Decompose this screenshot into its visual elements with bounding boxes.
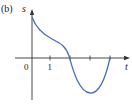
- origin-tick-label: 0: [24, 62, 29, 72]
- t-axis-label: t: [125, 61, 128, 72]
- panel-label: (b): [1, 3, 13, 15]
- figure-canvas: (b) s t 0 1: [0, 0, 132, 105]
- s-of-t-curve: [32, 17, 110, 93]
- position-time-graph: (b) s t 0 1: [0, 0, 132, 105]
- t-axis-arrow-icon: [124, 56, 130, 60]
- s-axis-label: s: [22, 3, 26, 14]
- s-axis-arrow-icon: [30, 9, 34, 15]
- one-tick-label: 1: [48, 62, 53, 72]
